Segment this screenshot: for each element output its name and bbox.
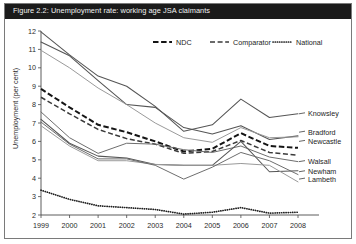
x-axis-tick-label: 2000: [62, 221, 78, 230]
legend-label-comparator: Comparator: [233, 38, 272, 47]
x-axis-tick-label: 2001: [90, 221, 106, 230]
y-axis-tick-label: 10: [28, 63, 36, 72]
legend-label-national: National: [296, 38, 323, 47]
series-label-newcastle: Newcastle: [308, 137, 341, 146]
y-axis-tick-label: 6: [32, 137, 36, 146]
figure-title-bar: Figure 2.2: Unemployment rate: working a…: [5, 4, 351, 19]
label-leader-newcastle: [299, 140, 305, 141]
legend-label-ndc: NDC: [176, 38, 192, 47]
figure-container: Figure 2.2: Unemployment rate: working a…: [0, 0, 356, 244]
series-line-national: [41, 190, 298, 214]
series-line-knowsley: [41, 32, 298, 131]
y-axis-tick-label: 9: [32, 82, 36, 91]
series-line-bradford: [41, 42, 298, 140]
y-axis-tick-label: 2: [32, 211, 36, 220]
series-label-walsall: Walsall: [308, 157, 331, 166]
chart-series-labels: KnowsleyBradfordNewcastleWalsallNewhamLa…: [299, 109, 341, 183]
y-axis-tick-label: 5: [32, 155, 36, 164]
y-axis-tick-label: 7: [32, 119, 36, 128]
label-leader-knowsley: [299, 113, 305, 114]
label-leader-bradford: [299, 131, 305, 132]
x-axis-tick-label: 2005: [204, 221, 220, 230]
y-axis-tick-label: 12: [28, 27, 36, 36]
label-leader-walsall: [299, 161, 305, 162]
y-axis-tick-label: 8: [32, 100, 36, 109]
x-axis-tick-label: 2003: [147, 221, 163, 230]
series-label-lambeth: Lambeth: [308, 175, 336, 184]
label-leader-newham: [299, 171, 305, 172]
series-label-bradford: Bradford: [308, 128, 336, 137]
y-axis-title: Unemployment (per cent): [11, 68, 20, 149]
y-axis-tick-label: 11: [29, 45, 36, 54]
x-axis-tick-label: 2008: [290, 221, 306, 230]
series-label-knowsley: Knowsley: [308, 109, 339, 118]
x-axis-tick-label: 1999: [33, 221, 49, 230]
unemployment-line-chart: 2345678910111219992000200120022003200420…: [5, 19, 351, 238]
page-title: Figure 2.2: Unemployment rate: working a…: [13, 6, 210, 15]
label-leader-lambeth: [299, 178, 305, 179]
x-axis-tick-label: 2007: [261, 221, 277, 230]
chart-plot-area: 2345678910111219992000200120022003200420…: [5, 19, 351, 238]
x-axis-tick-label: 2002: [119, 221, 135, 230]
chart-series: [41, 32, 298, 214]
x-axis-tick-label: 2006: [233, 221, 249, 230]
y-axis-tick-label: 3: [32, 192, 36, 201]
x-axis-tick-label: 2004: [176, 221, 192, 230]
chart-legend: NDCComparatorNational: [153, 38, 323, 47]
y-axis-tick-label: 4: [32, 174, 36, 183]
series-line-ndc: [41, 89, 298, 152]
